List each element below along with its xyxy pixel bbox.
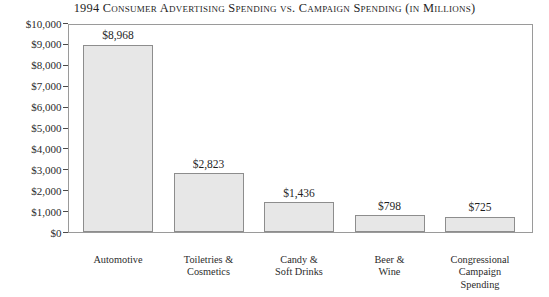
bar[interactable] — [264, 202, 334, 232]
x-axis-category-label-line: Campaign — [430, 266, 530, 278]
y-axis-tick-label: $6,000 — [31, 102, 61, 113]
x-axis-category-label: Automotive — [68, 254, 168, 266]
bar-group: $1,436 — [264, 23, 334, 232]
x-axis-category-label: Beer &Wine — [340, 254, 440, 279]
bar-chart-figure: 1994 Consumer Advertising Spending vs. C… — [0, 0, 549, 297]
bar-value-label: $8,968 — [83, 30, 153, 42]
bar[interactable] — [174, 173, 244, 232]
x-axis-category-label-line: Cosmetics — [159, 266, 259, 278]
x-axis-category-label-line: Beer & — [340, 254, 440, 266]
x-axis-category-label: Candy &Soft Drinks — [249, 254, 349, 279]
bar-group: $8,968 — [83, 23, 153, 232]
plot-area: $8,968$2,823$1,436$798$725 — [68, 24, 533, 233]
y-axis-tick-label: $8,000 — [31, 60, 61, 71]
x-axis-category-label-line: Automotive — [68, 254, 168, 266]
y-axis-tick-label: $2,000 — [31, 186, 61, 197]
chart-title: 1994 Consumer Advertising Spending vs. C… — [0, 1, 549, 16]
bar-group: $798 — [355, 23, 425, 232]
y-axis-tick-label: $3,000 — [31, 165, 61, 176]
bar-value-label: $2,823 — [174, 159, 244, 171]
x-axis-category-label-line: Spending — [430, 279, 530, 291]
y-axis-tick-label: $4,000 — [31, 144, 61, 155]
bar[interactable] — [355, 215, 425, 232]
x-axis-category-label-line: Candy & — [249, 254, 349, 266]
bar-value-label: $798 — [355, 201, 425, 213]
y-axis-tick-label: $5,000 — [31, 123, 61, 134]
x-axis: AutomotiveToiletries &CosmeticsCandy &So… — [0, 236, 549, 296]
x-axis-category-label-line: Soft Drinks — [249, 266, 349, 278]
bar-value-label: $1,436 — [264, 188, 334, 200]
x-axis-category-label: CongressionalCampaignSpending — [430, 254, 530, 291]
y-axis-tick-label: $7,000 — [31, 81, 61, 92]
y-axis-tick-label: $9,000 — [31, 39, 61, 50]
bar-group: $2,823 — [174, 23, 244, 232]
x-axis-category-label: Toiletries &Cosmetics — [159, 254, 259, 279]
y-axis-tick-label: $1,000 — [31, 207, 61, 218]
bar[interactable] — [445, 217, 515, 232]
y-axis: $0$1,000$2,000$3,000$4,000$5,000$6,000$7… — [0, 24, 68, 233]
x-axis-category-label-line: Congressional — [430, 254, 530, 266]
bar-group: $725 — [445, 23, 515, 232]
bar[interactable] — [83, 45, 153, 232]
bar-value-label: $725 — [445, 202, 515, 214]
x-axis-category-label-line: Toiletries & — [159, 254, 259, 266]
y-axis-tick-label: $10,000 — [26, 19, 62, 30]
x-axis-category-label-line: Wine — [340, 266, 440, 278]
